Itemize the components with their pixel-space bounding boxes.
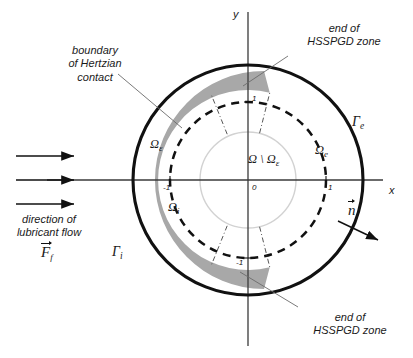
omega-minus-main: Ω \ Ω [248,152,276,166]
x-axis-text: x [389,184,395,196]
band-end-radial-upper-outer [260,93,270,134]
y-axis-label: y [233,8,239,21]
hsspgd-domain-diagram: boundary of Hertzian contact end of HSSP… [0,0,413,358]
origin-text: 0 [252,183,256,192]
hertzian-line-2: of Hertzian [52,57,138,70]
origin-label: 0 [252,183,256,193]
normal-arrow-overbar [348,201,354,202]
label-gamma-i: Γi [112,243,123,262]
y-tick-neg1-text: -1 [236,258,243,267]
label-gamma-e: Γe [352,113,364,132]
band-end-radial-lower-outer [260,227,270,267]
normal-vector-letter: n [348,202,356,218]
normal-vector-arrow [338,221,378,240]
x-tick-label-neg1: -1 [163,183,170,193]
x-tick-pos1-text: 1 [328,183,332,192]
flow-line-2: lubricant flow [3,226,95,239]
hertzian-line-1: boundary [52,44,138,57]
leader-hsspgd-bottom [240,272,298,307]
annotation-hsspgd-zone-top: end of HSSPGD zone [290,22,398,49]
band-end-radial-lower-inner [212,226,228,265]
label-omega-i: Ωi [168,200,180,216]
force-vector-label: Ff [41,242,53,263]
force-vector-letter: F [41,244,50,260]
annotation-hertzian-boundary: boundary of Hertzian contact [52,44,138,84]
annotation-lubricant-flow: direction of lubricant flow [3,213,95,240]
force-vector-symbol: Ff [41,244,53,260]
y-axis-text: y [233,8,239,20]
y-tick-pos1-text: 1 [252,94,256,103]
omega-e-symbol: Ω [315,143,324,157]
flow-line-1: direction of [3,213,95,226]
hsspgd-bottom-line-1: end of [296,311,404,324]
force-vector-subscript: f [50,252,53,262]
x-tick-neg1-text: -1 [163,183,170,192]
annotation-hsspgd-zone-bottom: end of HSSPGD zone [296,311,404,338]
x-axis-label: x [389,184,395,197]
label-omega-e: Ωe [315,143,328,159]
gamma-i-symbol: Γ [112,244,120,259]
omega-i-symbol: Ω [168,200,177,214]
omega-i-subscript: i [177,206,180,216]
label-omega-epsilon: Ωε [150,137,163,153]
hertzian-line-3: contact [52,71,138,84]
gamma-i-subscript: i [120,251,123,261]
hsspgd-top-line-1: end of [290,22,398,35]
omega-epsilon-symbol: Ω [150,137,159,151]
label-omega-minus-omega-epsilon: Ω \ Ωε [248,152,279,168]
hsspgd-bottom-line-2: HSSPGD zone [296,324,404,337]
gamma-e-symbol: Γ [352,114,360,129]
hsspgd-top-line-2: HSSPGD zone [290,35,398,48]
band-end-radial-upper-inner [212,96,228,135]
x-tick-label-pos1: 1 [328,183,332,193]
omega-e-subscript: e [324,149,328,159]
omega-epsilon-subscript: ε [159,143,163,153]
y-tick-label-pos1: 1 [252,94,256,104]
vector-arrow-overbar [41,243,51,244]
y-tick-label-neg1: -1 [236,258,243,268]
normal-vector-label: n [348,200,356,220]
omega-minus-subscript: ε [276,158,280,168]
gamma-e-subscript: e [360,121,364,131]
normal-vector-symbol: n [348,202,356,218]
